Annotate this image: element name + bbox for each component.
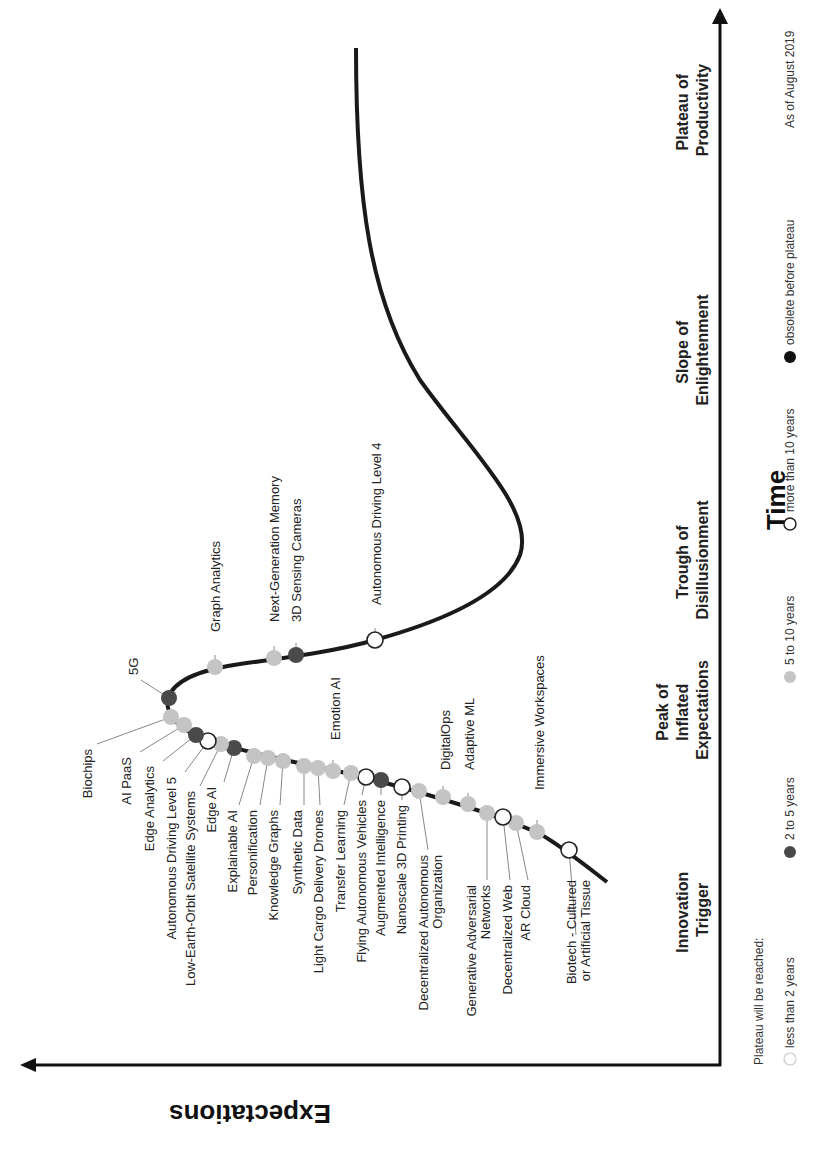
dot-generative-adversarial-networks (479, 805, 495, 821)
dot-next-generation-memory (266, 650, 282, 666)
legend-5to10-label: 5 to 10 years (783, 596, 797, 665)
time-axis-arrow-icon (712, 8, 728, 24)
dot-knowledge-graphs (275, 753, 291, 769)
legend-title: Plateau will be reached: (752, 938, 766, 1065)
label-digitalops: DigitalOps (438, 710, 453, 770)
dot-light-cargo-delivery-drones (310, 760, 326, 776)
label-personification: Personification (245, 810, 260, 895)
label-autonomous-driving-level-5: Autonomous Driving Level 5 (164, 777, 179, 940)
dot-biotech-cultured-or-artificial-tissue (561, 842, 577, 858)
legend-gt10-icon (784, 518, 796, 530)
dot-explainable-ai (246, 748, 262, 764)
label-low-earth-orbit-satellite-systems: Low-Earth-Orbit Satellite Systems (183, 791, 198, 987)
label-explainable-ai: Explainable AI (225, 810, 240, 892)
dot-emotion-ai (325, 763, 341, 779)
phase-trough-of-disillusionment: Trough of Disillusionment (674, 500, 711, 620)
legend-2to5-label: 2 to 5 years (783, 777, 797, 840)
label-next-generation-memory: Next-Generation Memory (267, 476, 282, 622)
legend-lt2-label: less than 2 years (783, 957, 797, 1048)
label-generative-adversarial-networks: Generative AdversarialNetworks (464, 885, 493, 1017)
legend: Plateau will be reached: less than 2 yea… (752, 30, 797, 1065)
dot-5g (161, 690, 177, 706)
label-graph-analytics: Graph Analytics (208, 540, 223, 632)
label-flying-autonomous-vehicles: Flying Autonomous Vehicles (354, 800, 369, 963)
label-immersive-workspaces: Immersive Workspaces (532, 655, 547, 790)
hype-cycle-chart: Biotech - Culturedor Artificial TissueIm… (0, 0, 831, 1152)
dot-nanoscale-3d-printing (394, 779, 410, 795)
label-synthetic-data: Synthetic Data (290, 809, 305, 894)
dot-synthetic-data (296, 758, 312, 774)
technology-labels: Biotech - Culturedor Artificial TissueIm… (80, 442, 593, 1016)
label-edge-ai: Edge AI (204, 787, 219, 833)
dot-augmented-intelligence (373, 772, 389, 788)
label-autonomous-driving-level-4: Autonomous Driving Level 4 (369, 442, 384, 605)
dot-immersive-workspaces (529, 824, 545, 840)
phase-labels: Innovation Trigger Peak of Inflated Expe… (654, 64, 711, 953)
dot-autonomous-driving-level-4 (367, 632, 383, 648)
expectations-axis-arrow-icon (20, 1058, 36, 1072)
label-biotech-cultured-or-artificial-tissue: Biotech - Culturedor Artificial Tissue (564, 880, 593, 984)
dot-graph-analytics (207, 659, 223, 675)
leader-line (419, 791, 428, 850)
legend-lt2-icon (784, 1053, 796, 1065)
dot-biochips (163, 709, 179, 725)
expectations-axis-title: Expectations (169, 1099, 331, 1129)
label-transfer-learning: Transfer Learning (333, 810, 348, 912)
label-adaptive-ml: Adaptive ML (462, 698, 477, 770)
legend-obsolete-icon (784, 351, 796, 363)
dot-transfer-learning (343, 765, 359, 781)
label-ar-cloud: AR Cloud (518, 885, 533, 941)
legend-2to5-icon (784, 846, 796, 858)
legend-obsolete-label: obsolete before plateau (783, 220, 797, 345)
label-biochips: Biochips (80, 749, 95, 799)
label-edge-analytics: Edge Analytics (142, 766, 157, 852)
dot-3d-sensing-cameras (288, 647, 304, 663)
label-nanoscale-3d-printing: Nanoscale 3D Printing (394, 805, 409, 934)
leader-line (516, 823, 528, 880)
label-augmented-intelligence: Augmented Intelligence (373, 800, 388, 936)
dot-adaptive-ml (460, 796, 476, 812)
label-decentralized-web: Decentralized Web (500, 885, 515, 995)
label-3d-sensing-cameras: 3D Sensing Cameras (289, 498, 304, 622)
dot-flying-autonomous-vehicles (358, 769, 374, 785)
as-of-date: As of August 2019 (783, 30, 797, 128)
label-emotion-ai: Emotion AI (328, 677, 343, 740)
phase-peak-of-inflated-expectations: Peak of Inflated Expectations (654, 660, 711, 760)
dot-decentralized-web (495, 809, 511, 825)
phase-innovation-trigger: Innovation Trigger (674, 867, 711, 952)
label-5g: 5G (126, 658, 141, 675)
label-decentralized-autonomous-organization: Decentralized AutonomousOrganization (416, 855, 445, 1011)
phase-slope-of-enlightenment: Slope of Enlightenment (674, 294, 711, 406)
dot-decentralized-autonomous-organization (411, 783, 427, 799)
dot-digitalops (435, 789, 451, 805)
label-light-cargo-delivery-drones: Light Cargo Delivery Drones (311, 810, 326, 974)
legend-gt10-label: more than 10 years (783, 409, 797, 512)
phase-plateau-of-productivity: Plateau of Productivity (674, 64, 711, 157)
label-ai-paas: AI PaaS (119, 757, 134, 805)
legend-5to10-icon (784, 671, 796, 683)
label-knowledge-graphs: Knowledge Graphs (266, 810, 281, 921)
dot-personification (260, 750, 276, 766)
